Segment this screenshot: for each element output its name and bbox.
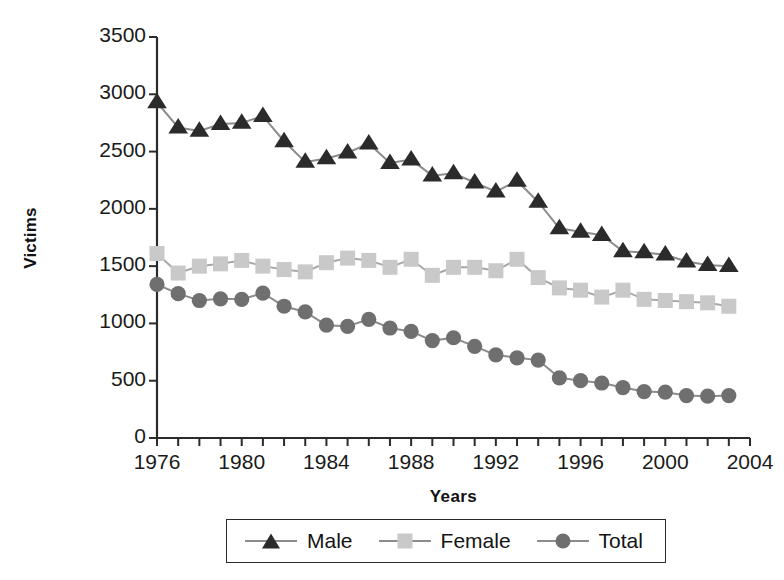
marker-total — [425, 333, 440, 348]
marker-female — [340, 251, 355, 266]
marker-total — [340, 319, 355, 334]
marker-total — [467, 339, 482, 354]
legend-item-total: Total — [537, 529, 647, 553]
marker-male — [444, 164, 464, 180]
marker-female — [488, 263, 503, 278]
marker-female — [573, 283, 588, 298]
marker-female — [594, 290, 609, 305]
marker-female — [531, 270, 546, 285]
marker-female — [255, 259, 270, 274]
marker-female — [721, 299, 736, 314]
marker-male — [401, 150, 421, 166]
marker-total — [192, 293, 207, 308]
triangle-icon — [262, 534, 280, 549]
legend-item-male: Male — [245, 529, 379, 553]
marker-female — [234, 253, 249, 268]
marker-female — [700, 295, 715, 310]
marker-male — [507, 171, 527, 187]
marker-male — [211, 114, 231, 129]
marker-female — [552, 280, 567, 295]
legend-sample-line — [379, 532, 431, 550]
marker-total — [552, 370, 567, 385]
marker-total — [721, 388, 736, 403]
marker-total — [361, 312, 376, 327]
marker-female — [510, 252, 525, 267]
marker-total — [404, 324, 419, 339]
marker-female — [150, 246, 165, 261]
marker-male — [634, 243, 654, 258]
marker-total — [594, 375, 609, 390]
marker-total — [234, 292, 249, 307]
marker-female — [213, 256, 228, 271]
marker-total — [700, 389, 715, 404]
marker-total — [573, 373, 588, 388]
chart-legend: MaleFemaleTotal — [226, 519, 666, 563]
marker-male — [359, 134, 379, 150]
marker-female — [361, 253, 376, 268]
marker-male — [253, 106, 273, 122]
marker-total — [276, 299, 291, 314]
circle-icon — [555, 534, 570, 549]
marker-female — [319, 255, 334, 270]
marker-female — [637, 292, 652, 307]
marker-female — [192, 259, 207, 274]
marker-total — [319, 318, 334, 333]
marker-total — [149, 277, 164, 292]
marker-male — [423, 166, 443, 182]
marker-female — [382, 260, 397, 275]
legend-sample-line — [537, 532, 589, 550]
marker-total — [637, 384, 652, 399]
plot-area — [0, 0, 784, 580]
marker-female — [446, 260, 461, 275]
square-icon — [397, 534, 412, 549]
marker-female — [171, 266, 186, 281]
marker-female — [425, 268, 440, 283]
marker-total — [679, 388, 694, 403]
legend-label: Male — [307, 529, 353, 553]
marker-female — [298, 264, 313, 279]
marker-female — [658, 293, 673, 308]
marker-total — [213, 291, 228, 306]
legend-sample-line — [245, 532, 297, 550]
marker-total — [615, 380, 630, 395]
legend-item-female: Female — [379, 529, 537, 553]
marker-total — [658, 385, 673, 400]
marker-total — [298, 304, 313, 319]
legend-label: Total — [599, 529, 643, 553]
legend-label: Female — [441, 529, 511, 553]
marker-male — [465, 173, 485, 189]
victims-by-sex-line-chart: Victims Years 05001000150020002500300035… — [0, 0, 784, 580]
marker-total — [446, 330, 461, 345]
marker-female — [679, 294, 694, 309]
marker-male — [613, 242, 633, 258]
marker-total — [509, 350, 524, 365]
marker-female — [467, 260, 482, 275]
marker-total — [488, 347, 503, 362]
marker-male — [655, 245, 675, 261]
marker-total — [171, 286, 186, 301]
marker-female — [615, 283, 630, 298]
marker-total — [255, 285, 270, 300]
marker-total — [382, 320, 397, 335]
marker-male — [338, 143, 358, 159]
marker-male — [486, 182, 506, 198]
marker-total — [531, 352, 546, 367]
series-male — [147, 93, 738, 272]
marker-male — [719, 257, 739, 273]
marker-female — [404, 252, 419, 267]
marker-female — [277, 262, 292, 277]
